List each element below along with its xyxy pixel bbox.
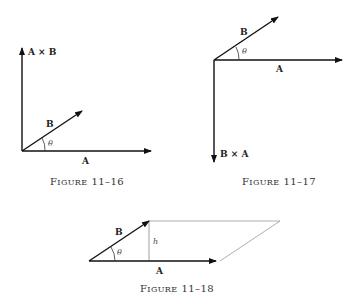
label-b: B [115,227,123,237]
figure-11-17: B θ A B × A FIGURE11–17 [214,17,342,187]
label-h: h [153,237,158,246]
vector-diagrams: A × B B θ A FIGURE11–16 B θ A B × A FIGU… [0,0,360,305]
angle-arc [42,138,45,151]
label-theta: θ [117,248,122,257]
angle-arc [236,47,239,60]
label-a: A [155,266,164,276]
figure-11-16: A × B B θ A FIGURE11–16 [22,47,151,187]
figure-caption: FIGURE11–18 [140,283,214,294]
angle-arc [111,247,115,261]
figure-11-18: B θ h A FIGURE11–18 [89,221,280,294]
parallelogram-right [220,221,280,261]
figure-caption: FIGURE11–16 [50,176,124,187]
label-a: A [275,64,284,74]
figure-caption: FIGURE11–17 [242,176,316,187]
label-a: A [81,156,90,166]
label-theta: θ [242,47,247,56]
label-a-cross-b: A × B [27,47,57,57]
label-theta: θ [48,139,53,148]
label-b: B [46,119,54,129]
label-b: B [240,27,248,37]
label-b-cross-a: B × A [220,149,249,159]
